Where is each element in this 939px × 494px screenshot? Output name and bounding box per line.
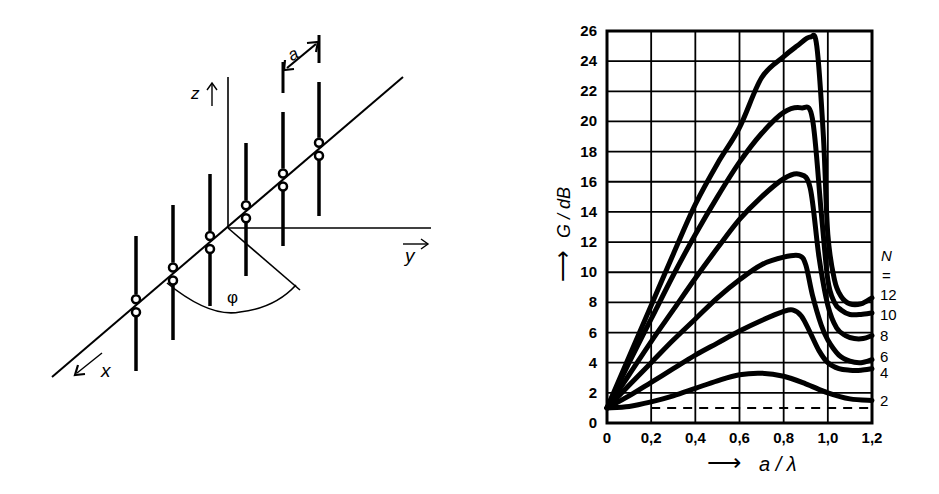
y-tick-label: 6 [589, 324, 597, 341]
dipole-feed-upper [169, 264, 177, 272]
y-axis-label: G / dB [554, 187, 574, 238]
dipole-feed-lower [279, 183, 287, 191]
y-tick-label: 20 [580, 112, 597, 129]
y-tick-label: 2 [589, 384, 597, 401]
y-tick-label: 16 [580, 173, 597, 190]
y-tick-label: 4 [589, 354, 598, 371]
legend-value-n-8: 8 [880, 327, 888, 344]
y-axis-title: ⟶ G / dB [550, 187, 575, 282]
legend-value-n-2: 2 [880, 392, 888, 409]
y-axis-label: y [403, 245, 416, 266]
y-tick-label: 8 [589, 293, 597, 310]
dipole-feed-upper [242, 201, 250, 209]
y-tick-label: 0 [589, 414, 597, 431]
y-tick-label: 12 [580, 233, 597, 250]
phi-angle-label: φ [227, 288, 238, 307]
legend-value-n-6: 6 [880, 348, 888, 365]
legend-title: N [881, 247, 892, 264]
y-axis-label-text: G / dB [554, 187, 574, 238]
x-tick-label: 0,8 [773, 429, 794, 446]
dipole-feed-upper [132, 295, 140, 303]
dipole-feed-lower [242, 214, 250, 222]
y-axis-arrow: ⟶ [550, 250, 575, 282]
y-tick-label: 26 [580, 22, 597, 39]
legend-equals: = [882, 267, 891, 284]
y-tick-labels: 02468101214161820222426 [580, 22, 597, 431]
y-tick-label: 24 [580, 52, 597, 69]
z-axis-label: z [190, 84, 200, 103]
x-tick-label: 0,2 [641, 429, 662, 446]
x-tick-label: 1,0 [817, 429, 838, 446]
x-tick-label: 0,6 [729, 429, 750, 446]
spacing-label: a [284, 44, 302, 65]
x-axis-label: x [100, 360, 112, 381]
y-tick-label: 14 [580, 203, 597, 220]
y-tick-label: 18 [580, 143, 597, 160]
dipole-array-diagram [52, 35, 431, 377]
x-tick-label: 1,2 [862, 429, 883, 446]
y-tick-label: 10 [580, 263, 597, 280]
legend-values: 12108642 [880, 286, 897, 409]
x-tick-label: 0 [603, 429, 611, 446]
dipole-feed-upper [279, 170, 287, 178]
dipole-feed-upper [206, 232, 214, 240]
legend-value-n-4: 4 [880, 364, 888, 381]
dipole-feed-lower [169, 277, 177, 285]
dipole-feed-lower [315, 152, 323, 160]
x-tick-labels: 00,20,40,60,81,01,2 [603, 429, 883, 446]
x-tick-label: 0,4 [685, 429, 707, 446]
x-axis-arrow: ⟶ [707, 449, 741, 476]
legend-value-n-12: 12 [880, 286, 897, 303]
dipole-feed-lower [206, 245, 214, 253]
figure-canvas: a z y x φ 02468101214161820222426 00,20,… [0, 0, 939, 494]
angle-reference-line [228, 228, 300, 290]
gain-chart: 02468101214161820222426 00,20,40,60,81,0… [580, 22, 882, 446]
x-axis-label: a / λ [759, 453, 797, 475]
dipole-feed-upper [315, 139, 323, 147]
x-arrow-line [77, 353, 102, 373]
dipole-feed-lower [132, 308, 140, 316]
y-tick-label: 22 [580, 82, 597, 99]
legend-value-n-10: 10 [880, 306, 897, 323]
